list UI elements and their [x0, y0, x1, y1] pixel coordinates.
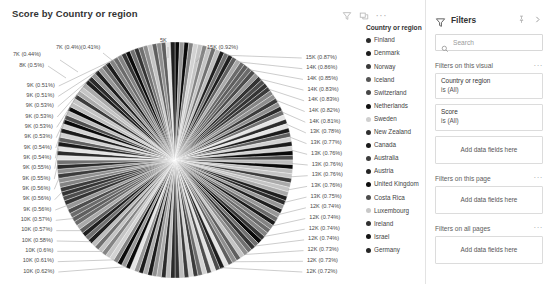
section-more-options-icon[interactable]: ···	[534, 226, 544, 230]
legend-title: Country or region	[366, 24, 424, 31]
filter-card-field: Country or region	[441, 77, 537, 86]
legend[interactable]: Country or region FinlandDenmarkNorwayIc…	[366, 24, 424, 257]
filters-pane[interactable]: Filters Filters on th	[425, 0, 552, 284]
pie-data-label: 9K (0.56%)	[0, 196, 51, 202]
legend-item-label: Denmark	[374, 50, 400, 56]
pie-data-label: 9K (0.54%)	[0, 145, 52, 151]
legend-item-label: Finland	[374, 37, 395, 43]
legend-item-label: Australia	[374, 155, 399, 161]
legend-item[interactable]: Ireland	[366, 217, 424, 230]
focus-mode-icon[interactable]	[359, 10, 370, 21]
legend-item[interactable]: Switzerland	[366, 86, 424, 99]
pie-data-label: 14K (0.86%)	[306, 65, 337, 71]
pie-data-label: 9K (0.53%)	[0, 124, 53, 130]
filters-search-box[interactable]	[435, 34, 543, 51]
filter-card-state: is (All)	[441, 86, 537, 95]
pie-data-label: 12K (0.74%)	[310, 204, 341, 210]
filter-icon[interactable]	[342, 10, 353, 21]
pin-icon[interactable]	[516, 14, 527, 25]
filters-section: Filters on this page···Add data fields h…	[435, 175, 543, 214]
filters-sections[interactable]: Filters on this visual···Country or regi…	[435, 62, 543, 264]
legend-item[interactable]: Austria	[366, 165, 424, 178]
legend-item-label: Switzerland	[374, 90, 407, 96]
pie-data-label: 13K (0.78%)	[310, 129, 341, 135]
legend-items[interactable]: FinlandDenmarkNorwayIcelandSwitzerlandNe…	[366, 34, 424, 257]
legend-item[interactable]: Denmark	[366, 47, 424, 60]
legend-item-label: United Kingdom	[374, 181, 419, 187]
pie-slices[interactable]	[55, 42, 295, 278]
pie-data-label: 12K (0.74%)	[309, 215, 340, 221]
pie-data-label: 10K (0.57%)	[0, 227, 52, 233]
legend-item[interactable]: Sweden	[366, 113, 424, 126]
report-page: Score by Country or region ··· 15K (0.87…	[0, 0, 552, 284]
pie-data-label: 9K (0.54%)	[0, 155, 51, 161]
filters-search-input[interactable]	[453, 39, 537, 46]
legend-item-label: Israel	[374, 234, 389, 240]
pie-data-label: 10K (0.57%)	[0, 217, 52, 223]
pie-data-label: 9K (0.56%)	[0, 186, 50, 192]
legend-item[interactable]: Iceland	[366, 73, 424, 86]
pie-data-label: 15K (0.92%)	[207, 45, 238, 51]
legend-item-label: New Zealand	[374, 129, 411, 135]
chevron-right-icon[interactable]	[532, 14, 543, 25]
legend-item[interactable]: Luxembourg	[366, 204, 424, 217]
filters-section-title: Filters on this visual	[435, 62, 493, 69]
pie-data-label: 5K	[160, 38, 167, 44]
legend-item[interactable]: United Kingdom	[366, 178, 424, 191]
pie-data-label: 13K (0.76%)	[312, 162, 343, 168]
pie-data-label: 7K (0.4%)(0.41%)	[56, 45, 100, 51]
filters-section-header: Filters on all pages···	[435, 225, 543, 232]
filter-dropzone[interactable]: Add data fields here	[435, 186, 543, 214]
legend-swatch	[366, 143, 371, 148]
filter-dropzone[interactable]: Add data fields here	[435, 136, 543, 164]
filters-title: Filters	[451, 15, 511, 25]
pie-data-label: 15K (0.87%)	[306, 55, 337, 61]
legend-item-label: Austria	[374, 168, 394, 174]
filter-card[interactable]: Scoreis (All)	[435, 104, 543, 130]
legend-item-label: Germany	[374, 247, 400, 253]
pie-data-label: 10K (0.58%)	[0, 238, 53, 244]
legend-swatch	[366, 117, 371, 122]
pie-graphic[interactable]	[55, 42, 295, 278]
legend-item[interactable]: New Zealand	[366, 126, 424, 139]
funnel-icon	[435, 14, 446, 25]
legend-swatch	[366, 64, 371, 69]
pie-data-label: 9K (0.56%)	[0, 207, 51, 213]
legend-item[interactable]: Israel	[366, 230, 424, 243]
section-more-options-icon[interactable]: ···	[534, 64, 544, 68]
legend-item[interactable]: Germany	[366, 244, 424, 257]
section-more-options-icon[interactable]: ···	[534, 176, 544, 180]
legend-swatch	[366, 221, 371, 226]
more-options-icon[interactable]: ···	[376, 13, 388, 19]
pie-data-label: 12K (0.74%)	[308, 236, 339, 242]
legend-item-label: Norway	[374, 64, 395, 70]
legend-swatch	[366, 182, 371, 187]
legend-item[interactable]: Australia	[366, 152, 424, 165]
visual-header-toolbar[interactable]: ···	[342, 10, 388, 21]
legend-swatch	[366, 130, 371, 135]
filters-pane-header: Filters	[435, 14, 543, 25]
legend-item[interactable]: Finland	[366, 34, 424, 47]
pie-data-label: 9K (0.51%)	[0, 93, 54, 99]
legend-swatch	[366, 51, 371, 56]
pie-data-label: 8K (0.5%)	[0, 63, 44, 69]
pie-chart-visual[interactable]: Score by Country or region ··· 15K (0.87…	[0, 0, 425, 284]
legend-item[interactable]: Netherlands	[366, 99, 424, 112]
legend-item-label: Costa Rica	[374, 195, 405, 201]
pie-data-label: 9K (0.55%)	[0, 165, 51, 171]
legend-item[interactable]: Norway	[366, 60, 424, 73]
pie-data-label: 9K (0.53%)	[0, 114, 53, 120]
filter-card-field: Score	[441, 108, 537, 117]
legend-swatch	[366, 90, 371, 95]
legend-swatch	[366, 169, 371, 174]
legend-item-label: Netherlands	[374, 103, 408, 109]
legend-item-label: Ireland	[374, 221, 393, 227]
pie-data-label: 12K (0.73%)	[308, 247, 339, 253]
filters-section: Filters on this visual···Country or regi…	[435, 62, 543, 164]
pie-data-label: 7K (0.44%)	[13, 52, 41, 58]
legend-item[interactable]: Costa Rica	[366, 191, 424, 204]
legend-item[interactable]: Canada	[366, 139, 424, 152]
filter-dropzone[interactable]: Add data fields here	[435, 236, 543, 264]
pie-data-label: 9K (0.53%)	[0, 103, 54, 109]
filter-card[interactable]: Country or regionis (All)	[435, 73, 543, 99]
